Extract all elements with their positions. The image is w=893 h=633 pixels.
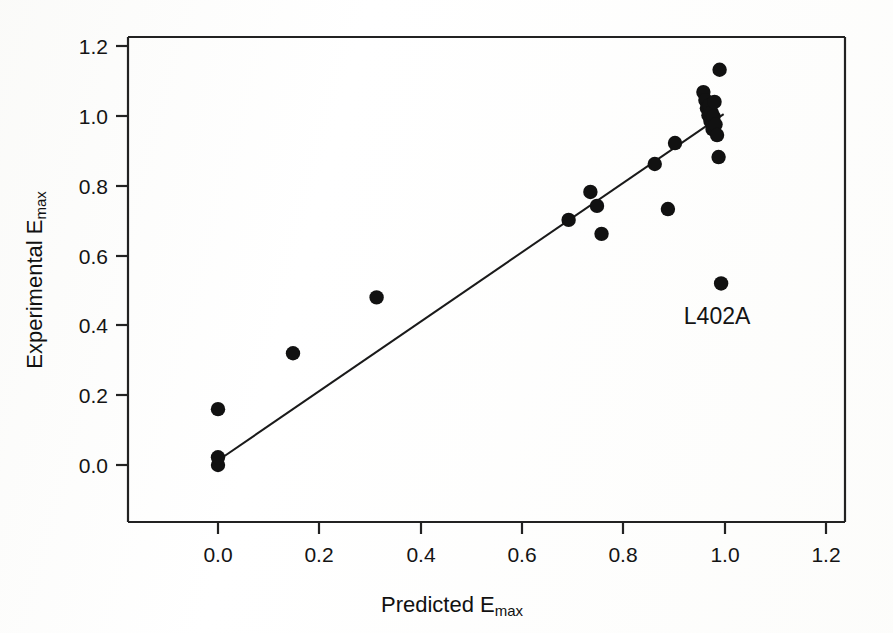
y-tick-label-0.4: 0.4 <box>79 314 109 337</box>
y-tick-label-0.8: 0.8 <box>79 175 108 198</box>
y-axis-tick-labels: 1.2 1.0 0.8 0.6 0.4 0.2 0.0 <box>79 35 109 477</box>
data-points <box>211 63 729 473</box>
y-tick-label-0.6: 0.6 <box>79 245 108 268</box>
x-tick-label-0.6: 0.6 <box>507 543 536 566</box>
y-tick-label-0.2: 0.2 <box>79 384 108 407</box>
figure-container: 1.2 1.0 0.8 0.6 0.4 0.2 0.0 0.0 0.2 0.4 … <box>0 0 893 633</box>
data-point <box>369 290 383 304</box>
x-axis-ticks <box>218 522 826 534</box>
x-axis-title-sub: max <box>495 602 524 619</box>
y-axis-title-sub: max <box>32 191 49 220</box>
data-point <box>211 450 225 464</box>
y-tick-label-1.2: 1.2 <box>79 35 108 58</box>
data-point <box>594 227 608 241</box>
y-axis-title-base: Experimental E <box>22 220 47 369</box>
x-tick-label-0.8: 0.8 <box>608 543 637 566</box>
data-point <box>561 213 575 227</box>
x-axis-title: Predicted Emax <box>381 592 524 619</box>
y-axis-ticks <box>116 46 128 465</box>
x-tick-label-0.2: 0.2 <box>304 543 333 566</box>
data-point <box>710 128 724 142</box>
data-point <box>286 346 300 360</box>
data-point <box>714 276 728 290</box>
data-point <box>668 136 682 150</box>
annotations: L402A <box>684 303 751 329</box>
svg-text:Experimental Emax: Experimental Emax <box>22 191 49 369</box>
data-point <box>648 157 662 171</box>
data-point <box>590 199 604 213</box>
x-axis-title-base: Predicted E <box>381 592 495 617</box>
x-tick-label-0.0: 0.0 <box>203 543 232 566</box>
data-point <box>661 202 675 216</box>
data-point <box>711 150 725 164</box>
annotation-label: L402A <box>684 303 751 329</box>
x-tick-label-1.2: 1.2 <box>811 543 840 566</box>
data-point <box>211 402 225 416</box>
y-axis-title: Experimental Emax <box>22 191 49 369</box>
x-tick-label-1.0: 1.0 <box>710 543 739 566</box>
svg-text:Predicted Emax: Predicted Emax <box>381 592 524 619</box>
x-tick-label-0.4: 0.4 <box>406 543 436 566</box>
data-point <box>583 185 597 199</box>
y-tick-label-0.0: 0.0 <box>79 454 108 477</box>
x-axis-tick-labels: 0.0 0.2 0.4 0.6 0.8 1.0 1.2 <box>203 543 840 566</box>
data-point <box>712 63 726 77</box>
y-tick-label-1.0: 1.0 <box>79 105 108 128</box>
data-point <box>707 95 721 109</box>
scatter-plot: 1.2 1.0 0.8 0.6 0.4 0.2 0.0 0.0 0.2 0.4 … <box>0 0 893 633</box>
